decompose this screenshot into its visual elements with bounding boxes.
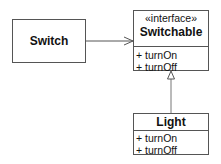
light-to-switchable-generalization — [168, 71, 175, 113]
class-switchable[interactable]: «interface» Switchable + turnOn + turnOf… — [133, 10, 209, 71]
operation: + turnOff — [136, 144, 206, 156]
operation: + turnOff — [136, 61, 206, 73]
switch-to-switchable-arrow — [86, 37, 133, 45]
class-light-name: Light — [156, 115, 185, 129]
operation: + turnOn — [136, 49, 206, 61]
class-switchable-name: Switchable — [134, 25, 208, 39]
operation: + turnOn — [136, 132, 206, 144]
class-switchable-stereotype: «interface» — [134, 12, 208, 24]
class-switch-name: Switch — [30, 34, 69, 48]
class-switchable-operations: + turnOn + turnOff — [134, 46, 208, 74]
class-light-operations: + turnOn + turnOff — [134, 130, 208, 157]
class-light[interactable]: Light + turnOn + turnOff — [133, 113, 209, 155]
class-switch[interactable]: Switch — [12, 19, 86, 63]
